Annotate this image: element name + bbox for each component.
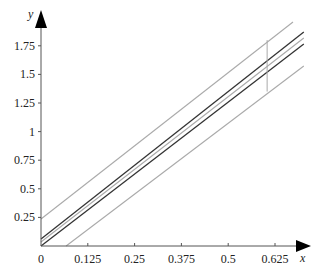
y-tick-label: 0.25 [14,210,35,224]
series-line-lower-band [66,66,304,246]
y-axis-label: y [27,7,34,21]
y-tick-label: 1 [29,125,35,139]
series-layer [41,22,304,246]
y-tick-label: 1.25 [14,96,35,110]
series-line-lower-fit [41,44,304,246]
y-tick-label: 1.75 [14,39,35,53]
x-tick-label: 0.25 [124,252,145,266]
y-tick-label: 0.75 [14,153,35,167]
series-line-center [41,38,304,242]
x-tick-label: 0.625 [262,252,289,266]
x-axis-label: x [299,251,306,265]
x-tick-label: 0.375 [168,252,195,266]
series-line-upper-band [41,22,293,219]
y-tick-label: 0.5 [20,182,35,196]
chart: x y 00.1250.250.3750.50.6250.250.50.7511… [0,0,313,278]
y-axis-arrow-icon [35,10,47,28]
x-tick-label: 0.5 [221,252,236,266]
x-tick-label: 0.125 [74,252,101,266]
x-tick-label: 0 [38,252,44,266]
y-tick-label: 1.5 [20,67,35,81]
series-line-upper-fit [41,32,304,239]
axes: x y [27,7,311,265]
